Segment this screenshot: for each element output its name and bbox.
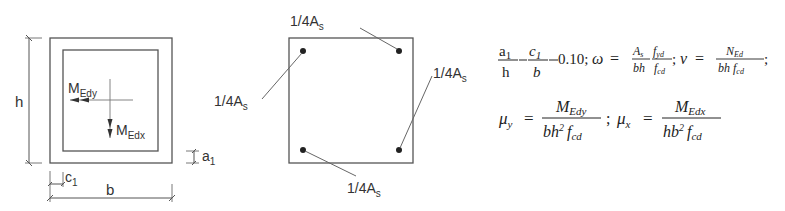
omega-numerator-fyd: fyd (653, 44, 665, 59)
bar-label-top: 1/4As (290, 13, 324, 32)
omega-symbol: ω (592, 50, 603, 67)
mu-y-numerator: MEdy (555, 98, 587, 117)
rebar-top-left (300, 48, 306, 54)
mu-separator: ; (606, 110, 610, 127)
rebar-bottom-left (300, 147, 306, 153)
mu-x-numerator: MEdx (674, 98, 706, 117)
dim-label-b: b (106, 181, 114, 198)
formula-block: a1 h c1 b 0.10; ω = As bh fyd fcd ; ν = … (498, 43, 768, 142)
omega-numerator: As (632, 44, 643, 59)
dim-label-c1: c1 (65, 169, 78, 188)
leader-top-left (262, 53, 302, 99)
nu-symbol: ν (680, 50, 688, 67)
dim-label-h: h (15, 93, 23, 110)
nu-denominator: bhfcd (718, 61, 745, 76)
moment-label-edx: MEdx (116, 122, 145, 141)
rebar-bottom-right (396, 147, 402, 153)
outer-section-outline (50, 38, 172, 163)
section-outline (289, 38, 413, 163)
section-geometry-diagram (25, 35, 199, 202)
leader-bottom-right (400, 76, 432, 148)
ratio-h-denominator: h (502, 64, 510, 80)
moment-label-edy: MEdy (68, 80, 97, 99)
omega-denominator-fcd: fcd (654, 61, 666, 76)
nu-separator: ; (764, 51, 768, 67)
ratio-a1-numerator: a1 (499, 43, 511, 61)
ratio-b-denominator: b (533, 64, 541, 80)
bar-label-right: 1/4As (433, 65, 467, 84)
mu-x-equals: = (643, 109, 653, 128)
ratio-c1-numerator: c1 (529, 43, 541, 61)
mu-x-symbol: μx (616, 109, 631, 130)
bar-label-left: 1/4As (214, 93, 248, 112)
mu-y-denominator: bh2fcd (543, 122, 582, 142)
nu-equals: = (695, 50, 704, 67)
dim-label-a1: a1 (202, 148, 216, 167)
omega-equals: = (610, 50, 619, 67)
omega-separator: ; (672, 51, 676, 67)
mu-x-denominator: hb2fcd (663, 122, 702, 142)
figure-canvas: h b c1 a1 MEdy MEdx 1/4As 1/4As 1/4As 1/… (0, 0, 785, 211)
bar-label-bottom: 1/4As (347, 180, 381, 199)
nu-numerator: NEd (725, 44, 744, 59)
mu-y-equals: = (524, 109, 534, 128)
ratio-value: 0.10; (558, 51, 588, 67)
omega-denominator: bh (633, 61, 645, 75)
reinforcement-layout-diagram (262, 28, 432, 176)
mu-y-symbol: μy (498, 109, 513, 130)
